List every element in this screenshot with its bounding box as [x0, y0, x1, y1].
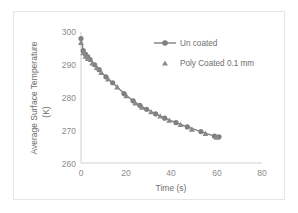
legend-label-un-coated: Un coated: [180, 39, 218, 48]
data-point-circle: [173, 120, 178, 125]
series-poly-coated: [78, 39, 220, 139]
x-tick-label: 60: [212, 168, 222, 178]
chart-legend: Un coated Poly Coated 0.1 mm: [154, 39, 254, 68]
x-axis-title: Time (s): [156, 183, 187, 193]
data-point-triangle: [78, 39, 84, 44]
x-tick-label: 40: [166, 168, 176, 178]
y-axis-title: Average Surface Temperature: [29, 41, 39, 154]
legend-label-poly-coated: Poly Coated 0.1 mm: [180, 59, 254, 68]
data-point-circle: [110, 80, 115, 85]
y-tick-label: 300: [62, 27, 76, 37]
y-axis-title-units: (K): [41, 106, 51, 118]
series-un-coated: [78, 36, 221, 139]
y-tick-label: 280: [62, 93, 76, 103]
data-point-circle: [185, 124, 190, 129]
y-tick-label: 260: [62, 159, 76, 169]
y-tick-label: 270: [62, 126, 76, 136]
chart-svg: 300 290 280 270 260 0 20 40 60 80 Time (…: [0, 0, 298, 213]
x-tick-label: 80: [257, 168, 267, 178]
legend-marker-triangle-icon: [162, 61, 168, 66]
data-line: [81, 39, 219, 137]
data-point-circle: [198, 129, 203, 134]
chart-plot-area: 300 290 280 270 260 0 20 40 60 80 Time (…: [0, 0, 298, 213]
legend-marker-circle-icon: [162, 40, 168, 46]
x-tick-label: 0: [79, 168, 84, 178]
x-tick-label: 20: [121, 168, 131, 178]
y-tick-label: 290: [62, 60, 76, 70]
